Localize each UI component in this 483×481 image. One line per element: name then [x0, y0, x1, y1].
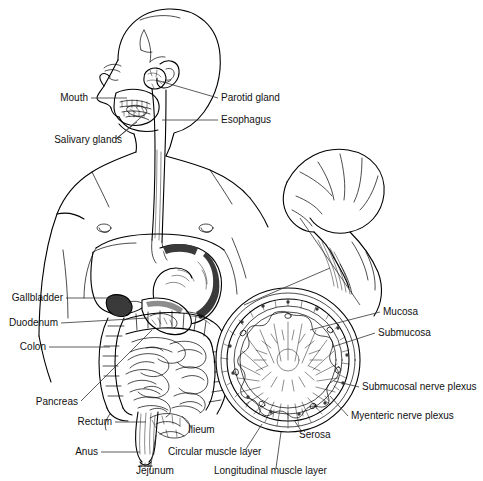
label-mucosa: Mucosa	[383, 306, 418, 317]
label-duodenum: Duodenum	[9, 317, 58, 328]
digestive-system-figure: Mouth Salivary glands Parotid gland Esop…	[0, 0, 483, 481]
label-mouth: Mouth	[60, 92, 88, 103]
label-submucosal-nerve-plexus: Submucosal nerve plexus	[362, 381, 477, 392]
label-serosa: Serosa	[299, 429, 331, 440]
label-salivary-glands: Salivary glands	[54, 134, 122, 145]
label-jejunum: Jejunum	[136, 465, 174, 476]
label-rectum: Rectum	[78, 416, 112, 427]
label-gallbladder: Gallbladder	[12, 292, 64, 303]
label-submucosa: Submucosa	[378, 327, 431, 338]
label-myenteric-nerve-plexus: Myenteric nerve plexus	[351, 410, 454, 421]
label-ilieum: Ilieum	[188, 424, 215, 435]
label-esophagus: Esophagus	[221, 114, 271, 125]
label-colon: Colon	[20, 341, 46, 352]
anatomy-illustration: Mouth Salivary glands Parotid gland Esop…	[0, 0, 483, 481]
label-circular-muscle-layer: Circular muscle layer	[168, 446, 262, 457]
label-anus: Anus	[75, 446, 98, 457]
label-parotid-gland: Parotid gland	[221, 92, 280, 103]
cross-section-circle	[216, 288, 360, 432]
label-longitudinal-muscle-layer: Longitudinal muscle layer	[214, 465, 328, 476]
label-pancreas: Pancreas	[36, 396, 78, 407]
